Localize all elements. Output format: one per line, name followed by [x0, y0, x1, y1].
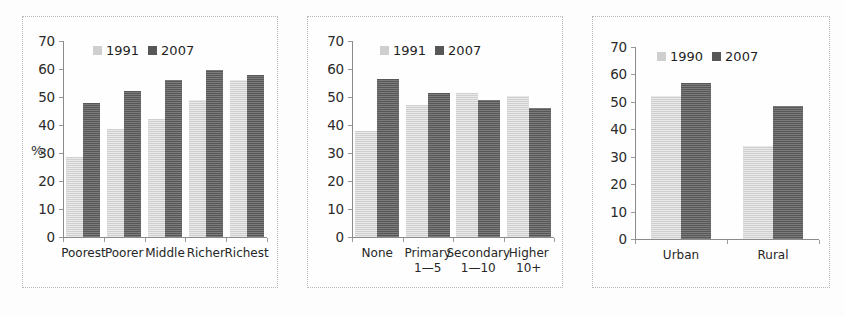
x-axis-line — [63, 237, 267, 238]
chart-panel-wealth: 010203040506070%PoorestPoorerMiddleRiche… — [22, 16, 278, 288]
legend-label: 2007 — [161, 43, 194, 58]
y-axis-tick-label: 60 — [610, 66, 627, 82]
chart-panel-residence: 010203040506070UrbanRural19902007 — [592, 16, 830, 288]
legend-label: 2007 — [448, 43, 481, 58]
y-axis-tick-mark — [631, 212, 635, 213]
legend-label: 1990 — [670, 49, 703, 64]
x-axis-tick-mark — [63, 238, 64, 242]
y-axis-line — [635, 47, 636, 239]
legend-label: 2007 — [725, 49, 758, 64]
bar-richer-1991 — [189, 100, 206, 237]
y-axis-tick-label: 10 — [610, 204, 627, 220]
y-axis-tick-mark — [59, 209, 63, 210]
y-axis-tick-mark — [348, 97, 352, 98]
bar-higher-1991 — [507, 96, 529, 237]
x-axis-category-label: Poorer — [105, 246, 143, 260]
bar-secondary-2007 — [478, 100, 500, 237]
x-axis-category-label: None — [362, 246, 393, 260]
x-axis-tick-mark — [504, 238, 505, 242]
y-axis-line — [352, 41, 353, 237]
bar-primary-2007 — [428, 93, 450, 237]
y-axis-tick-label: 20 — [327, 173, 344, 189]
y-axis-tick-mark — [631, 47, 635, 48]
legend-label: 1991 — [106, 43, 139, 58]
legend-label: 1991 — [393, 43, 426, 58]
chart-legend: 19912007 — [93, 43, 194, 58]
x-axis-tick-label: Primary1—5 — [405, 246, 451, 277]
legend-swatch-icon — [380, 46, 389, 55]
y-axis-tick-label: 10 — [327, 201, 344, 217]
y-axis-tick-label: 50 — [38, 89, 55, 105]
y-axis-tick-label: 70 — [38, 33, 55, 49]
y-axis-tick-mark — [59, 69, 63, 70]
y-axis-tick-mark — [631, 74, 635, 75]
bar-rural-1990 — [743, 146, 773, 239]
y-axis-tick-label: 40 — [610, 121, 627, 137]
y-axis-tick-label: 30 — [610, 149, 627, 165]
x-axis-tick-label: Richest — [224, 246, 268, 261]
y-axis-tick-mark — [348, 153, 352, 154]
y-axis-tick-label: 0 — [619, 231, 627, 247]
x-axis-category-label: Rural — [757, 248, 788, 262]
y-axis-tick-mark — [631, 102, 635, 103]
plot-area-education: 010203040506070NonePrimary1—5Secondary1—… — [308, 17, 562, 287]
x-axis-tick-mark — [352, 238, 353, 242]
figure-root: 010203040506070%PoorestPoorerMiddleRiche… — [0, 0, 844, 317]
legend-swatch-icon — [93, 46, 102, 55]
x-axis-tick-mark — [226, 238, 227, 242]
y-axis-tick-mark — [59, 125, 63, 126]
y-axis-tick-mark — [631, 129, 635, 130]
bar-poorer-1991 — [107, 129, 124, 237]
x-axis-tick-label: Urban — [663, 248, 699, 263]
bar-urban-1990 — [651, 96, 681, 239]
x-axis-category-sublabel: 1—10 — [446, 261, 510, 276]
x-axis-category-label: Primary — [405, 246, 451, 260]
legend-entry-2007: 2007 — [435, 43, 481, 58]
x-axis-tick-mark — [635, 240, 636, 244]
legend-entry-2007: 2007 — [148, 43, 194, 58]
y-axis-tick-mark — [348, 69, 352, 70]
y-axis-tick-mark — [631, 184, 635, 185]
legend-swatch-icon — [657, 52, 666, 61]
x-axis-category-label: Poorest — [61, 246, 106, 260]
x-axis-tick-label: Middle — [145, 246, 185, 261]
x-axis-tick-label: Secondary1—10 — [446, 246, 510, 277]
bar-richest-1991 — [230, 80, 247, 237]
y-axis-line — [63, 41, 64, 237]
y-axis-tick-mark — [59, 97, 63, 98]
chart-legend: 19912007 — [380, 43, 481, 58]
bar-primary-1991 — [406, 105, 428, 237]
chart-legend: 19902007 — [657, 49, 758, 64]
y-axis-tick-label: 20 — [610, 176, 627, 192]
y-axis-tick-label: 30 — [327, 145, 344, 161]
y-axis-tick-mark — [59, 41, 63, 42]
y-axis-tick-label: 50 — [610, 94, 627, 110]
y-axis-tick-mark — [348, 125, 352, 126]
legend-swatch-icon — [148, 46, 157, 55]
y-axis-tick-label: 20 — [38, 173, 55, 189]
y-axis-tick-mark — [348, 209, 352, 210]
bar-none-1991 — [355, 131, 377, 237]
x-axis-tick-mark — [727, 240, 728, 244]
x-axis-category-label: Urban — [663, 248, 699, 262]
x-axis-tick-label: None — [362, 246, 393, 261]
y-axis-tick-label: 70 — [610, 39, 627, 55]
y-axis-tick-label: 40 — [38, 117, 55, 133]
legend-entry-2007: 2007 — [712, 49, 758, 64]
y-axis-tick-mark — [348, 41, 352, 42]
legend-entry-1990: 1990 — [657, 49, 703, 64]
x-axis-category-sublabel: 10+ — [509, 261, 549, 276]
x-axis-tick-mark — [819, 240, 820, 244]
x-axis-tick-mark — [185, 238, 186, 242]
x-axis-category-label: Higher — [509, 246, 549, 260]
plot-area-wealth: 010203040506070%PoorestPoorerMiddleRiche… — [23, 17, 277, 287]
x-axis-tick-label: Poorer — [105, 246, 143, 261]
bar-rural-2007 — [773, 106, 803, 239]
y-axis-tick-mark — [631, 157, 635, 158]
x-axis-category-label: Middle — [145, 246, 185, 260]
y-axis-tick-mark — [59, 181, 63, 182]
x-axis-category-label: Secondary — [446, 246, 510, 260]
plot-area-residence: 010203040506070UrbanRural19902007 — [593, 17, 829, 287]
y-axis-tick-label: 50 — [327, 89, 344, 105]
y-axis-title: % — [31, 143, 43, 158]
